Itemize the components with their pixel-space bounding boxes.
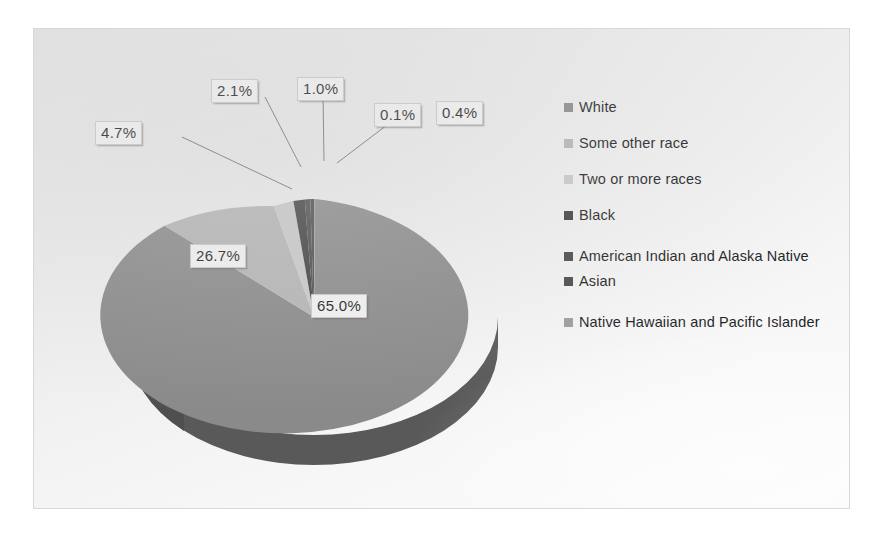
legend-item-some-other-race[interactable]: Some other race: [564, 135, 850, 152]
legend: White Some other race Two or more races …: [564, 99, 850, 350]
chart-frame: 4.7% 2.1% 1.0% 0.1% 0.4% 26.7% 65.0% Whi…: [33, 28, 850, 509]
legend-swatch-icon-some-other-race: [564, 139, 573, 148]
pie-plot-area: 4.7% 2.1% 1.0% 0.1% 0.4% 26.7% 65.0%: [34, 29, 594, 509]
legend-item-american-indian[interactable]: American Indian and Alaska Native: [564, 248, 850, 265]
legend-label-black: Black: [579, 207, 615, 224]
label-leader-lines: [182, 95, 387, 189]
pie-chart-svg: [34, 29, 594, 509]
legend-label-asian: Asian: [579, 273, 616, 290]
legend-label-american-indian: American Indian and Alaska Native: [579, 248, 809, 265]
leader-line-native-hawaiian: [337, 125, 387, 163]
data-label-two-or-more-races: 4.7%: [95, 121, 142, 145]
legend-label-two-or-more-races: Two or more races: [579, 171, 702, 188]
legend-swatch-icon-native-hawaiian: [564, 318, 573, 327]
legend-label-some-other-race: Some other race: [579, 135, 688, 152]
legend-label-native-hawaiian: Native Hawaiian and Pacific Islander: [579, 314, 820, 331]
page-canvas: 4.7% 2.1% 1.0% 0.1% 0.4% 26.7% 65.0% Whi…: [0, 0, 881, 534]
pie-top-face: [100, 199, 468, 433]
leader-line-american-indian: [323, 95, 324, 161]
legend-label-white: White: [579, 99, 617, 116]
legend-swatch-icon-american-indian: [564, 252, 573, 261]
legend-swatch-icon-black: [564, 211, 573, 220]
legend-item-native-hawaiian[interactable]: Native Hawaiian and Pacific Islander: [564, 314, 850, 331]
legend-item-two-or-more-races[interactable]: Two or more races: [564, 171, 850, 188]
legend-swatch-icon-asian: [564, 277, 573, 286]
data-label-white: 65.0%: [311, 294, 367, 318]
legend-swatch-icon-white: [564, 103, 573, 112]
legend-item-black[interactable]: Black: [564, 207, 850, 224]
leader-line-black: [265, 97, 301, 167]
legend-item-white[interactable]: White: [564, 99, 850, 116]
legend-item-asian[interactable]: Asian: [564, 273, 850, 290]
data-label-some-other-race: 26.7%: [190, 244, 246, 268]
leader-line-two-or-more: [182, 137, 292, 189]
data-label-black: 2.1%: [211, 79, 258, 103]
legend-swatch-icon-two-or-more-races: [564, 175, 573, 184]
data-label-american-indian: 1.0%: [297, 77, 344, 101]
data-label-native-hawaiian: 0.1%: [374, 103, 421, 127]
data-label-asian: 0.4%: [436, 101, 483, 125]
